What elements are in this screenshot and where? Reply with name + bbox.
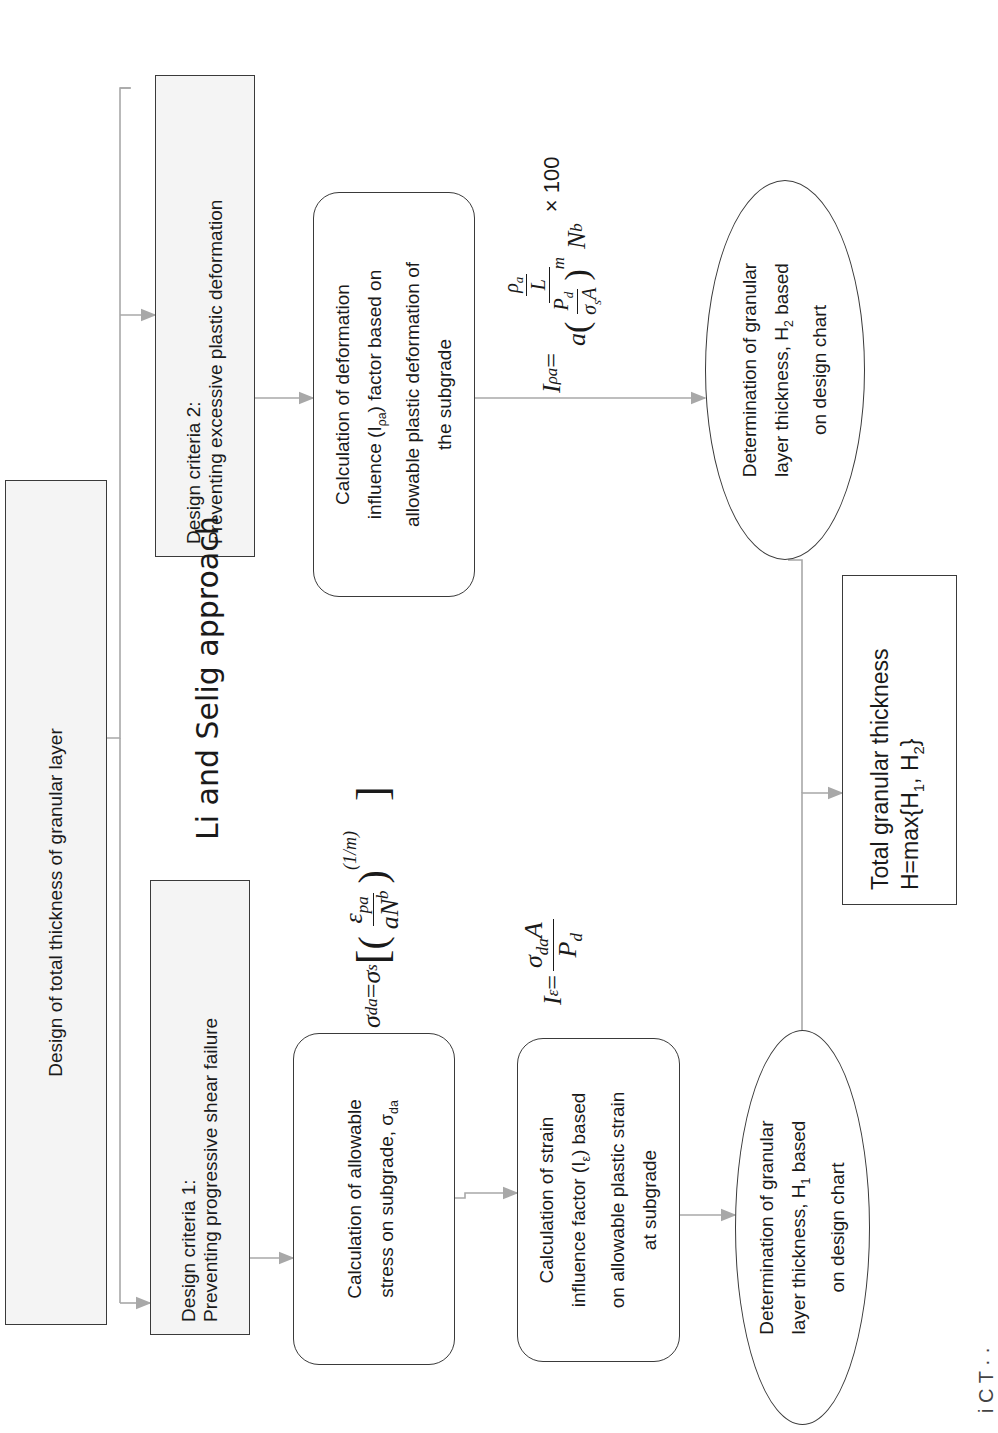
h2-subscript: 2 bbox=[781, 320, 795, 327]
sigma: σ bbox=[519, 955, 548, 968]
approach-label: Li and Selig approach bbox=[190, 516, 225, 840]
h2-line1: Determination of granular bbox=[734, 263, 766, 477]
sigma-da-equals: = bbox=[357, 984, 387, 999]
h2-line2-b: based bbox=[771, 263, 792, 320]
strain-subscript: ε bbox=[579, 1156, 593, 1162]
n-term: N bbox=[563, 232, 592, 249]
title-text: Design of total thickness of granular la… bbox=[45, 728, 67, 1077]
sigma-da-numerator: εpa bbox=[340, 893, 374, 926]
i-rho-formula: Iρa = ρa L a ( Pd σsA )m Nb × 100 bbox=[500, 157, 604, 393]
i-epsilon-lhs-sub: ε bbox=[543, 990, 563, 997]
a-n: aN bbox=[374, 899, 403, 929]
sigma-da-lhs-sub: da bbox=[362, 998, 382, 1015]
deformation-line1: Calculation of deformation bbox=[327, 284, 359, 505]
i-epsilon-denominator: Pd bbox=[554, 930, 587, 960]
allowable-stress-box: Calculation of allowable stress on subgr… bbox=[293, 1033, 455, 1365]
h1-line2-a: layer thickness, H bbox=[788, 1184, 809, 1334]
sigma-sub: da bbox=[533, 938, 552, 955]
rho-over-l: ρa L bbox=[500, 274, 549, 296]
a-coef: a bbox=[563, 333, 592, 346]
left-paren: ( bbox=[349, 936, 396, 949]
sigma-da-lhs: σ bbox=[357, 1015, 387, 1028]
i-rho-numerator: ρa L bbox=[500, 267, 550, 303]
criteria-2-label: Design criteria 2: bbox=[183, 76, 205, 556]
sigma-s: σ bbox=[357, 971, 387, 984]
criteria-1-description: Preventing progressive shear failure bbox=[200, 881, 222, 1334]
criteria-2-box: Design criteria 2: Preventing excessive … bbox=[155, 75, 255, 557]
l-term: L bbox=[527, 276, 549, 293]
i-epsilon-lhs: I bbox=[538, 996, 568, 1005]
p: P bbox=[553, 941, 582, 957]
caption-fragment: i C T · · bbox=[975, 1347, 998, 1413]
title-box: Design of total thickness of granular la… bbox=[5, 480, 107, 1325]
h1-line1: Determination of granular bbox=[751, 1120, 783, 1334]
sigma-s2-sub: s bbox=[589, 300, 604, 305]
total-sub1: 1 bbox=[910, 784, 927, 792]
deformation-line2-b: ) factor based on bbox=[364, 270, 385, 413]
sigma-s2: σ bbox=[578, 305, 600, 315]
b-sup: b bbox=[373, 890, 392, 898]
criteria-2-description: Preventing excessive plastic deformation bbox=[205, 76, 227, 556]
rho-num: ρa bbox=[500, 274, 527, 296]
n-sup: b bbox=[568, 223, 587, 231]
total-line1: Total granular thickness bbox=[865, 576, 895, 904]
strain-influence-box: Calculation of strain influence factor (… bbox=[517, 1038, 680, 1362]
strain-line2-b: ) based bbox=[568, 1093, 589, 1156]
pd: P bbox=[550, 298, 572, 310]
h2-line2: layer thickness, H2 based bbox=[766, 263, 805, 477]
h1-line2-b: based bbox=[788, 1121, 809, 1178]
left-bracket: [ bbox=[347, 950, 398, 965]
a-term: A bbox=[519, 922, 548, 938]
total-line2-c: } bbox=[897, 739, 923, 747]
rho: ρ bbox=[500, 283, 522, 293]
i-epsilon-equals: = bbox=[538, 975, 568, 990]
branch-trunk bbox=[107, 88, 130, 738]
i-rho-lhs: I bbox=[537, 384, 567, 393]
i-epsilon-formula: Iε = σdaA Pd bbox=[520, 915, 587, 1005]
pd-over-sigma: Pd σsA bbox=[550, 285, 604, 318]
h1-ellipse: Determination of granular layer thicknes… bbox=[735, 1030, 870, 1425]
strain-line3: on allowable plastic strain bbox=[602, 1092, 634, 1309]
h1-line3: on design chart bbox=[822, 1163, 854, 1293]
i-rho-equals: = bbox=[537, 353, 567, 368]
h2-ellipse: Determination of granular layer thicknes… bbox=[705, 180, 865, 560]
deformation-subscript: ρa bbox=[374, 412, 388, 426]
right-paren: ) bbox=[349, 870, 396, 883]
deformation-influence-box: Calculation of deformation influence (Iρ… bbox=[313, 192, 475, 597]
a-term2: A bbox=[578, 288, 600, 300]
deformation-line4: the subgrade bbox=[429, 339, 461, 450]
allowable-stress-line2: stress on subgrade, σda bbox=[371, 1100, 410, 1298]
strain-line2: influence factor (Iε) based bbox=[563, 1093, 602, 1308]
total-sub2: 2 bbox=[910, 746, 927, 754]
h2-line3: on design chart bbox=[804, 305, 836, 435]
i-epsilon-numerator: σdaA bbox=[520, 919, 554, 971]
i-epsilon-fraction: σdaA Pd bbox=[520, 919, 587, 971]
sigma-da-fraction: εpa aNb bbox=[340, 887, 404, 932]
times-100: × 100 bbox=[539, 157, 565, 213]
p-sub: d bbox=[567, 933, 586, 941]
sigma-da-formula: σda = σs [ ( εpa aNb )(1/m) ] bbox=[340, 786, 404, 1028]
criteria-1-box: Design criteria 1: Preventing progressiv… bbox=[150, 880, 250, 1335]
i-rho-lhs-sub: ρa bbox=[542, 368, 562, 385]
sigma-da-subscript: da bbox=[386, 1100, 400, 1114]
h1-line2: layer thickness, H1 based bbox=[783, 1121, 822, 1335]
deformation-line2-a: influence (I bbox=[364, 426, 385, 519]
epsilon: ε bbox=[339, 913, 368, 923]
h1-subscript: 1 bbox=[799, 1178, 813, 1185]
criteria-1-label: Design criteria 1: bbox=[178, 881, 200, 1334]
sigma-da-denominator: aNb bbox=[374, 887, 404, 932]
h2-line2-a: layer thickness, H bbox=[771, 327, 792, 477]
sigma-a-den: σsA bbox=[578, 285, 604, 318]
m-exp: m bbox=[550, 257, 569, 269]
deformation-line2: influence (Iρa) factor based on bbox=[359, 270, 398, 519]
i-rho-denominator: a ( Pd σsA )m Nb bbox=[550, 220, 604, 349]
allowable-stress-text: stress on subgrade, σ bbox=[376, 1114, 397, 1298]
inner-right-paren: ) bbox=[558, 269, 595, 280]
pd-sub: d bbox=[561, 292, 576, 299]
right-bracket: ] bbox=[347, 786, 398, 801]
allowable-stress-line1: Calculation of allowable bbox=[339, 1099, 371, 1299]
rho-sub: a bbox=[511, 277, 526, 284]
total-line2-b: , H bbox=[897, 755, 923, 784]
sigma-s-sub: s bbox=[362, 964, 382, 971]
